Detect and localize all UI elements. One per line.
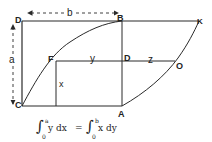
point-label-d-top: D <box>15 16 22 25</box>
integral-equation: ∫ a 0 y dx = ∫ b 0 x dy <box>36 115 176 139</box>
segment-label-y: y <box>90 54 95 64</box>
lhs-lower-limit: 0 <box>42 133 46 140</box>
point-label-b: B <box>117 14 124 23</box>
lhs-integrand: y dx <box>48 123 67 133</box>
curve-aok <box>122 21 199 106</box>
point-label-f: F <box>48 55 54 64</box>
curve-cfb <box>22 21 122 106</box>
segment-label-z: z <box>148 55 153 65</box>
rhs-integrand: x dy <box>98 123 117 133</box>
point-label-o: O <box>176 62 183 71</box>
point-label-d-mid: D <box>124 54 131 63</box>
equals-sign: = <box>75 123 83 133</box>
segment-label-x: x <box>59 80 64 89</box>
point-label-c: C <box>15 101 22 110</box>
dimension-label-b: b <box>67 8 73 18</box>
dimension-label-a: a <box>9 55 15 65</box>
rhs-lower-limit: 0 <box>92 133 96 140</box>
point-label-k: K <box>197 18 203 26</box>
